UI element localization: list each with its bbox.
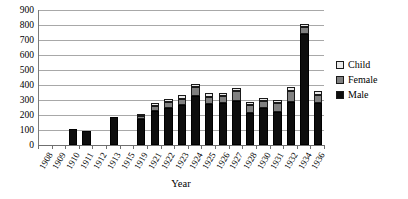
bar-segment-male xyxy=(232,101,240,145)
stacked-bar xyxy=(191,84,199,145)
x-axis-tick-label: 1928 xyxy=(242,151,259,171)
y-axis-tick-label: 800 xyxy=(20,21,34,30)
bar-slot xyxy=(259,10,267,145)
bar-segment-female xyxy=(219,96,227,104)
stacked-bar xyxy=(246,102,254,146)
x-axis-tick-label: 1913 xyxy=(106,151,123,171)
bar-segment-male xyxy=(205,104,213,145)
chart-legend: Child Female Male xyxy=(336,60,377,100)
x-axis-tick xyxy=(297,145,298,149)
bar-segment-male xyxy=(219,103,227,145)
stacked-bar xyxy=(273,100,281,145)
x-axis-tick xyxy=(229,145,230,149)
bar-slot xyxy=(191,10,199,145)
legend-label-female: Female xyxy=(348,75,377,85)
stacked-bar xyxy=(69,129,77,146)
bar-segment-female xyxy=(287,91,295,102)
legend-item-female: Female xyxy=(336,75,377,85)
x-axis-tick xyxy=(201,145,202,149)
legend-swatch-male-icon xyxy=(336,91,344,99)
x-axis-tick xyxy=(79,145,80,149)
x-axis-tick xyxy=(52,145,53,149)
y-axis-tick-label: 900 xyxy=(20,6,34,15)
bar-segment-male xyxy=(164,108,172,146)
bar-segment-male xyxy=(137,119,145,145)
bar-slot xyxy=(96,10,104,145)
bar-segment-male xyxy=(300,34,308,145)
stacked-bar xyxy=(178,95,186,145)
legend-swatch-female-icon xyxy=(336,76,344,84)
bar-segment-female xyxy=(314,95,322,103)
bar-slot xyxy=(82,10,90,145)
gridline xyxy=(39,145,324,146)
x-axis-tick xyxy=(256,145,257,149)
bar-segment-male xyxy=(246,113,254,145)
y-axis-tick-label: 200 xyxy=(20,111,34,120)
bar-segment-female xyxy=(178,99,186,106)
bar-segment-female xyxy=(273,103,281,112)
bar-slot xyxy=(246,10,254,145)
bar-segment-male xyxy=(110,117,118,145)
stacked-bar xyxy=(110,117,118,145)
stacked-bar xyxy=(82,131,90,145)
stacked-bar xyxy=(300,24,308,146)
stacked-bar xyxy=(314,91,322,145)
x-axis-tick xyxy=(270,145,271,149)
stacked-bar-chart: 0100200300400500600700800900 19081909191… xyxy=(0,0,408,199)
legend-label-male: Male xyxy=(348,90,369,100)
x-axis-tick xyxy=(161,145,162,149)
x-axis-tick xyxy=(324,145,325,149)
legend-item-male: Male xyxy=(336,90,377,100)
y-axis-tick-label: 300 xyxy=(20,96,34,105)
bar-segment-male xyxy=(259,108,267,145)
y-axis-labels: 0100200300400500600700800900 xyxy=(0,0,38,155)
bar-segment-male xyxy=(287,102,295,146)
bar-slot xyxy=(273,10,281,145)
y-axis-tick-label: 400 xyxy=(20,81,34,90)
stacked-bar xyxy=(287,87,295,145)
x-axis-title: Year xyxy=(38,178,324,189)
bar-segment-male xyxy=(178,105,186,145)
bar-segment-female xyxy=(246,105,254,113)
bar-slot xyxy=(151,10,159,145)
bar-slot xyxy=(69,10,77,145)
bar-segment-male xyxy=(273,112,281,145)
bar-segment-male xyxy=(191,96,199,146)
y-axis-tick-label: 500 xyxy=(20,66,34,75)
bar-segment-female xyxy=(191,87,199,95)
bar-slot xyxy=(164,10,172,145)
bar-slot xyxy=(178,10,186,145)
bar-slot xyxy=(300,10,308,145)
bar-slot xyxy=(287,10,295,145)
bar-slot xyxy=(123,10,131,145)
y-axis-tick-label: 100 xyxy=(20,126,34,135)
bar-slot xyxy=(232,10,240,145)
x-axis-tick xyxy=(106,145,107,149)
legend-item-child: Child xyxy=(336,60,377,70)
bar-segment-female xyxy=(259,101,267,109)
x-axis-tick xyxy=(188,145,189,149)
bar-segment-female xyxy=(205,97,213,104)
bar-slot xyxy=(314,10,322,145)
bar-slot xyxy=(110,10,118,145)
bar-segment-male xyxy=(151,111,159,145)
bar-segment-female xyxy=(232,91,240,101)
x-axis-tick xyxy=(283,145,284,149)
x-axis-tick xyxy=(215,145,216,149)
bar-series-group xyxy=(39,10,324,145)
bar-slot xyxy=(219,10,227,145)
x-axis-tick xyxy=(147,145,148,149)
bar-slot xyxy=(137,10,145,145)
bar-slot xyxy=(55,10,63,145)
legend-label-child: Child xyxy=(348,60,370,70)
stacked-bar xyxy=(205,93,213,145)
x-axis-tick xyxy=(174,145,175,149)
stacked-bar xyxy=(259,98,267,145)
y-axis-tick-label: 0 xyxy=(29,141,34,150)
y-axis-tick-label: 600 xyxy=(20,51,34,60)
stacked-bar xyxy=(164,99,172,146)
x-axis-tick-label: 1932 xyxy=(283,151,300,171)
x-axis-tick-label: 1923 xyxy=(174,151,191,171)
x-axis-tick xyxy=(65,145,66,149)
legend-swatch-child-icon xyxy=(336,61,344,69)
